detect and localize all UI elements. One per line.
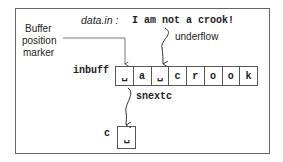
underflow-label: underflow bbox=[175, 31, 218, 42]
buffer-cell: a bbox=[133, 66, 152, 86]
source-text: I am not a crook! bbox=[132, 15, 234, 26]
buffer-marker-label-line1: Buffer bbox=[25, 23, 52, 34]
snextc-arrow bbox=[126, 88, 131, 125]
c-variable-box: ␣ bbox=[117, 126, 136, 149]
inbuff-label: inbuff bbox=[73, 65, 109, 76]
inbuff-buffer: ␣ a ␣ c r o o k bbox=[116, 66, 258, 86]
buffer-cell: k bbox=[239, 66, 258, 86]
c-label: c bbox=[104, 128, 110, 139]
buffer-cell: ␣ bbox=[115, 66, 134, 86]
buffer-marker-label-line3: marker bbox=[23, 47, 54, 58]
buffer-marker-label-line2: position bbox=[22, 35, 56, 46]
source-label: data.in : bbox=[81, 15, 118, 26]
buffer-cell: r bbox=[186, 66, 205, 86]
buffer-cell: o bbox=[222, 66, 241, 86]
buffer-cell: ␣ bbox=[151, 66, 170, 86]
buffer-cell: o bbox=[204, 66, 223, 86]
snextc-label: snextc bbox=[136, 91, 172, 102]
underflow-arrow bbox=[162, 28, 169, 64]
buffer-cell: c bbox=[168, 66, 187, 86]
buffer-marker-arrow bbox=[63, 38, 125, 64]
